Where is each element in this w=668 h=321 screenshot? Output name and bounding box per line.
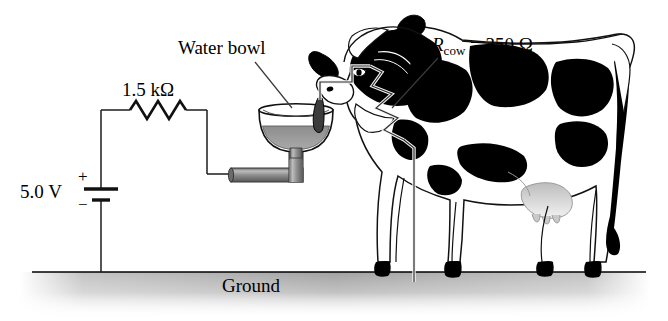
leader-water-bowl: [255, 62, 292, 108]
battery-symbol: [84, 189, 118, 200]
resistor-zigzag-icon: [130, 101, 186, 119]
cow-tongue: [313, 98, 324, 133]
cow-foreleg-inner-line: [396, 178, 404, 262]
hoof-front-left: [374, 261, 390, 277]
cow-ear-left: [309, 52, 339, 79]
cow-patch-neck: [406, 58, 473, 122]
figure-cow-circuit: Water bowl 1.5 kΩ 5.0 V + − Rcow = 350 Ω…: [0, 0, 668, 321]
cow-teat-2: [542, 216, 550, 224]
cow-udder: [521, 183, 572, 219]
label-ground: Ground: [222, 276, 280, 295]
rcow-symbol: R: [432, 34, 444, 55]
circuit-wires: [101, 110, 232, 272]
label-voltage: 5.0 V: [20, 182, 62, 201]
hoof-rear-right: [584, 261, 601, 278]
cow-teat-1: [532, 214, 540, 222]
cow-teat-3: [552, 215, 560, 223]
label-battery-minus: −: [78, 196, 88, 213]
hoof-front-right: [444, 261, 461, 278]
label-battery-plus: +: [78, 168, 88, 185]
hoof-rear-left: [536, 261, 553, 277]
cow-eye: [352, 68, 366, 76]
ground-shading: [20, 272, 650, 318]
rcow-subscript: cow: [444, 43, 466, 58]
cow-patch-hip-upper: [551, 59, 614, 117]
pipe-end-cap: [228, 168, 233, 182]
label-water-bowl: Water bowl: [178, 38, 266, 57]
bowl-stem: [290, 148, 302, 158]
label-resistor-value: 1.5 kΩ: [122, 80, 174, 99]
label-rcow: Rcow = 350 Ω: [432, 35, 533, 54]
rcow-value: = 350 Ω: [465, 34, 533, 55]
diagram-canvas: [0, 0, 668, 321]
